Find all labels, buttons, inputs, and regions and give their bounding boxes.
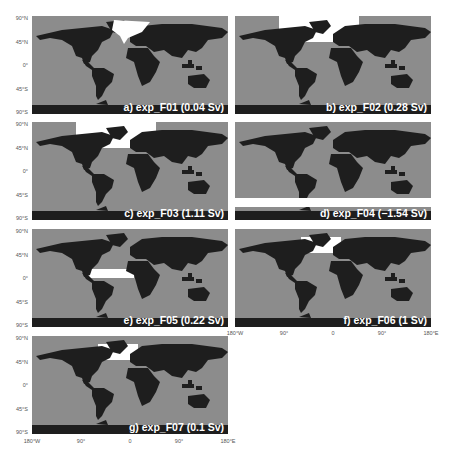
panel-label: c) exp_F03 (1.11 Sv) (124, 207, 224, 219)
y-tick: 0° (2, 62, 28, 68)
y-tick: 90°S (2, 215, 28, 221)
panel-label: f) exp_F06 (1 Sv) (344, 314, 427, 326)
panel-label: g) exp_F07 (0.1 Sv) (129, 421, 224, 433)
y-tick: 90°N (2, 335, 28, 341)
map-panel-f: f) exp_F06 (1 Sv) (235, 229, 431, 327)
world-map (32, 122, 228, 220)
world-map (235, 16, 431, 114)
y-tick: 45°S (2, 192, 28, 198)
y-tick: 45°N (2, 145, 28, 151)
y-tick: 90°S (2, 322, 28, 328)
x-tick: 90° (367, 330, 397, 336)
map-panel-g: g) exp_F07 (0.1 Sv) (32, 336, 228, 434)
x-tick: 180°E (213, 438, 243, 444)
x-tick: 180°W (220, 330, 250, 336)
x-tick: 180°E (416, 330, 446, 336)
world-map (32, 336, 228, 434)
panel-label: a) exp_F01 (0.04 Sv) (124, 101, 224, 113)
world-map (32, 16, 228, 114)
y-tick: 90°S (2, 429, 28, 435)
y-tick: 90°N (2, 228, 28, 234)
y-tick: 45°S (2, 406, 28, 412)
map-panel-d: d) exp_F04 (−1.54 Sv) (235, 122, 431, 220)
world-map (235, 229, 431, 327)
x-tick: 90° (164, 438, 194, 444)
map-panel-a: a) exp_F01 (0.04 Sv) (32, 16, 228, 114)
x-tick: 0 (115, 438, 145, 444)
x-tick: 90° (66, 438, 96, 444)
map-panel-e: e) exp_F05 (0.22 Sv) (32, 229, 228, 327)
panel-label: d) exp_F04 (−1.54 Sv) (320, 207, 427, 219)
y-tick: 45°S (2, 86, 28, 92)
y-tick: 90°S (2, 109, 28, 115)
y-tick: 0° (2, 168, 28, 174)
world-map (32, 229, 228, 327)
y-tick: 0° (2, 382, 28, 388)
x-tick: 180°W (17, 438, 47, 444)
panel-label: b) exp_F02 (0.28 Sv) (326, 101, 427, 113)
y-tick: 0° (2, 275, 28, 281)
y-tick: 45°N (2, 252, 28, 258)
world-map (235, 122, 431, 220)
y-tick: 90°N (2, 121, 28, 127)
y-tick: 45°S (2, 299, 28, 305)
panel-label: e) exp_F05 (0.22 Sv) (124, 314, 224, 326)
map-panel-b: b) exp_F02 (0.28 Sv) (235, 16, 431, 114)
x-tick: 90° (269, 330, 299, 336)
y-tick: 45°N (2, 39, 28, 45)
y-tick: 45°N (2, 359, 28, 365)
y-tick: 90°N (2, 15, 28, 21)
map-panel-c: c) exp_F03 (1.11 Sv) (32, 122, 228, 220)
x-tick: 0 (318, 330, 348, 336)
